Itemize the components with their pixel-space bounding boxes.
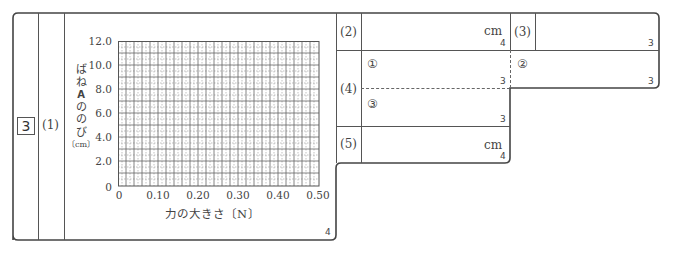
- section-number: 3: [17, 117, 35, 135]
- q4-part2-points: 3: [648, 76, 654, 86]
- q3-answer-field[interactable]: [536, 14, 658, 49]
- y-tick-12: 12.0: [82, 35, 112, 47]
- graph-grid[interactable]: [118, 41, 320, 187]
- q4-part1-points: 3: [500, 76, 506, 86]
- x-tick-0.10: 0.10: [143, 189, 173, 201]
- q1-label: (1): [42, 118, 59, 132]
- divider-right-label-col: [336, 13, 337, 163]
- q4-part1-answer-field[interactable]: [362, 51, 509, 87]
- q2-label: (2): [340, 25, 357, 39]
- q3-points: 3: [648, 38, 654, 48]
- divider-q1: [64, 13, 65, 240]
- q2-unit: cm: [484, 24, 502, 38]
- y-tick-10: 10.0: [82, 59, 112, 71]
- divider-q2-q3: [510, 13, 511, 50]
- q2-points: 4: [500, 38, 506, 48]
- x-tick-0.30: 0.30: [223, 189, 253, 201]
- q5-unit: cm: [484, 138, 502, 152]
- q4-label: (4): [340, 82, 357, 96]
- y-tick-6: 6.0: [82, 107, 112, 119]
- q4-part3-answer-field[interactable]: [362, 89, 509, 125]
- q4-part2-answer-field[interactable]: [511, 51, 658, 87]
- x-tick-0.20: 0.20: [183, 189, 213, 201]
- q5-label: (5): [340, 137, 357, 151]
- y-tick-8: 8.0: [82, 83, 112, 95]
- x-tick-0: 0: [104, 189, 134, 201]
- q4-part3-points: 3: [500, 114, 506, 124]
- x-tick-0.40: 0.40: [263, 189, 293, 201]
- x-tick-0.50: 0.50: [303, 189, 333, 201]
- y-tick-4: 4.0: [82, 131, 112, 143]
- q5-points: 4: [500, 151, 506, 161]
- q3-label: (3): [514, 25, 531, 39]
- y-tick-2: 2.0: [82, 155, 112, 167]
- divider-section: [38, 13, 39, 240]
- chart-xlabel: 力の大きさ〔N〕: [165, 205, 260, 221]
- q1-points: 4: [325, 227, 331, 237]
